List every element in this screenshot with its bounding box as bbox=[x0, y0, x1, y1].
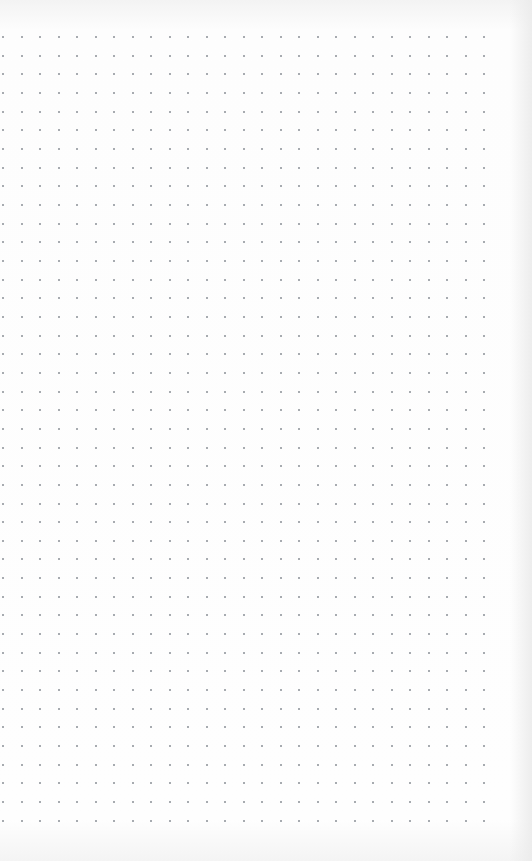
grid-dot bbox=[2, 428, 4, 430]
grid-dot bbox=[261, 111, 263, 113]
grid-dot bbox=[95, 73, 97, 75]
grid-dot bbox=[335, 36, 337, 38]
grid-dot bbox=[21, 820, 23, 822]
grid-dot bbox=[280, 708, 282, 710]
grid-dot bbox=[58, 540, 60, 542]
grid-dot bbox=[113, 726, 115, 728]
grid-dot bbox=[150, 558, 152, 560]
grid-dot bbox=[298, 391, 300, 393]
grid-dot bbox=[169, 73, 171, 75]
grid-dot bbox=[39, 801, 41, 803]
grid-dot bbox=[76, 521, 78, 523]
grid-dot bbox=[483, 36, 485, 38]
grid-dot bbox=[483, 353, 485, 355]
grid-dot bbox=[206, 614, 208, 616]
grid-dot bbox=[39, 503, 41, 505]
grid-dot bbox=[150, 708, 152, 710]
grid-dot bbox=[150, 447, 152, 449]
grid-dot bbox=[446, 521, 448, 523]
grid-dot bbox=[446, 708, 448, 710]
grid-dot bbox=[224, 521, 226, 523]
grid-dot bbox=[187, 689, 189, 691]
grid-dot bbox=[261, 409, 263, 411]
grid-dot bbox=[132, 92, 134, 94]
grid-dot bbox=[391, 129, 393, 131]
grid-dot bbox=[261, 185, 263, 187]
grid-dot bbox=[243, 465, 245, 467]
grid-dot bbox=[428, 652, 430, 654]
grid-dot bbox=[224, 801, 226, 803]
grid-dot bbox=[132, 689, 134, 691]
grid-dot bbox=[150, 316, 152, 318]
grid-dot bbox=[95, 129, 97, 131]
grid-dot bbox=[169, 558, 171, 560]
grid-dot bbox=[391, 801, 393, 803]
grid-dot bbox=[391, 279, 393, 281]
grid-dot bbox=[243, 558, 245, 560]
grid-dot bbox=[39, 391, 41, 393]
grid-dot bbox=[150, 241, 152, 243]
grid-dot bbox=[372, 36, 374, 38]
grid-dot bbox=[132, 204, 134, 206]
grid-dot bbox=[21, 652, 23, 654]
grid-dot bbox=[391, 614, 393, 616]
grid-dot bbox=[95, 372, 97, 374]
grid-dot bbox=[391, 92, 393, 94]
grid-dot bbox=[132, 614, 134, 616]
grid-dot bbox=[132, 185, 134, 187]
grid-dot bbox=[95, 391, 97, 393]
grid-dot bbox=[39, 820, 41, 822]
grid-dot bbox=[224, 185, 226, 187]
grid-dot bbox=[446, 167, 448, 169]
grid-dot bbox=[465, 447, 467, 449]
grid-dot bbox=[280, 614, 282, 616]
grid-dot bbox=[2, 820, 4, 822]
grid-dot bbox=[150, 409, 152, 411]
grid-dot bbox=[187, 484, 189, 486]
grid-dot bbox=[2, 316, 4, 318]
grid-dot bbox=[243, 745, 245, 747]
grid-dot bbox=[335, 92, 337, 94]
grid-dot bbox=[465, 73, 467, 75]
grid-dot bbox=[150, 540, 152, 542]
grid-dot bbox=[243, 167, 245, 169]
grid-dot bbox=[280, 484, 282, 486]
grid-dot bbox=[76, 447, 78, 449]
grid-dot bbox=[354, 428, 356, 430]
grid-dot bbox=[169, 596, 171, 598]
grid-dot bbox=[76, 764, 78, 766]
grid-dot bbox=[76, 428, 78, 430]
grid-dot bbox=[317, 428, 319, 430]
grid-dot bbox=[113, 316, 115, 318]
grid-dot bbox=[280, 167, 282, 169]
grid-dot bbox=[409, 801, 411, 803]
grid-dot bbox=[224, 335, 226, 337]
grid-dot bbox=[317, 820, 319, 822]
grid-dot bbox=[465, 223, 467, 225]
grid-dot bbox=[39, 73, 41, 75]
grid-dot bbox=[150, 36, 152, 38]
grid-dot bbox=[2, 111, 4, 113]
grid-dot bbox=[280, 223, 282, 225]
grid-dot bbox=[113, 782, 115, 784]
grid-dot bbox=[335, 260, 337, 262]
grid-dot bbox=[224, 540, 226, 542]
grid-dot bbox=[187, 745, 189, 747]
grid-dot bbox=[372, 484, 374, 486]
grid-dot bbox=[243, 428, 245, 430]
grid-dot bbox=[187, 204, 189, 206]
grid-dot bbox=[21, 55, 23, 57]
grid-dot bbox=[224, 428, 226, 430]
grid-dot bbox=[409, 820, 411, 822]
grid-dot bbox=[483, 167, 485, 169]
grid-dot bbox=[187, 764, 189, 766]
grid-dot bbox=[76, 241, 78, 243]
grid-dot bbox=[224, 558, 226, 560]
grid-dot bbox=[21, 764, 23, 766]
grid-dot bbox=[132, 335, 134, 337]
grid-dot bbox=[335, 484, 337, 486]
grid-dot bbox=[317, 185, 319, 187]
grid-dot bbox=[95, 111, 97, 113]
grid-dot bbox=[224, 726, 226, 728]
grid-dot bbox=[169, 36, 171, 38]
